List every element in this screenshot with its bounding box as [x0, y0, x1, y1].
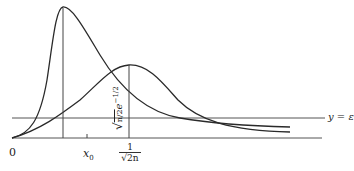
origin-label: 0 — [9, 147, 16, 158]
epsilon-line-label: y = ε — [328, 112, 354, 122]
peak-y-exp-base: e — [113, 103, 124, 109]
x0-label-sub: 0 — [89, 154, 93, 162]
x0-label: x0 — [83, 148, 94, 162]
sqrt-symbol: √ — [111, 122, 125, 130]
peak-x-label: 1 √2n — [118, 142, 142, 164]
peak-x-denominator: √2n — [118, 153, 142, 164]
peak-y-label: √n/2e−1/2 — [111, 86, 125, 130]
wide-curve — [12, 65, 290, 138]
peak-x-numerator: 1 — [118, 142, 142, 152]
peak-y-fraction: n/2 — [115, 109, 124, 122]
peak-y-exp-power: −1/2 — [112, 86, 120, 103]
